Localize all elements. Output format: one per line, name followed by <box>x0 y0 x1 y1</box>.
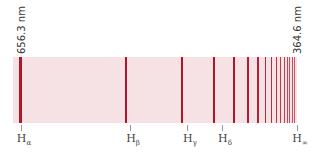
spectral-line <box>213 57 215 123</box>
line-label: Hα <box>17 132 31 147</box>
spectral-line <box>125 57 128 123</box>
label-tick <box>187 125 188 131</box>
label-tick <box>222 125 223 131</box>
line-label: Hβ <box>126 132 140 147</box>
spectral-line <box>284 57 285 123</box>
label-tick <box>130 125 131 131</box>
spectral-line <box>247 57 248 123</box>
spectral-line <box>271 57 272 123</box>
spectral-line <box>19 57 22 123</box>
spectral-line <box>265 57 266 123</box>
spectral-line <box>289 57 290 123</box>
spectral-line <box>181 57 183 123</box>
wavelength-label-656: 656.3 nm <box>16 6 27 54</box>
wavelength-label-364: 364.6 nm <box>292 6 303 54</box>
spectral-line <box>233 57 235 123</box>
label-tick <box>21 125 22 131</box>
spectral-line <box>276 57 277 123</box>
spectral-line <box>294 57 295 123</box>
spectral-line <box>292 57 293 123</box>
spectral-line <box>280 57 281 123</box>
spectral-line <box>287 57 288 123</box>
spectral-line <box>257 57 258 123</box>
line-label: Hδ <box>218 132 232 147</box>
line-label: H∞ <box>292 132 307 147</box>
label-tick <box>297 125 298 131</box>
spectrum-band <box>13 57 297 123</box>
line-label: Hγ <box>183 132 197 147</box>
